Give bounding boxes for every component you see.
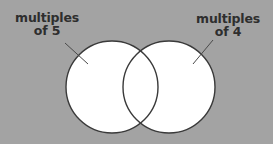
label-line-2: of 4	[195, 25, 261, 38]
label-multiples-of-5: multiples of 5	[14, 11, 80, 37]
venn-diagram: multiples of 5 multiples of 4	[0, 0, 273, 144]
label-line-2: of 5	[14, 24, 80, 37]
label-multiples-of-4: multiples of 4	[195, 12, 261, 38]
